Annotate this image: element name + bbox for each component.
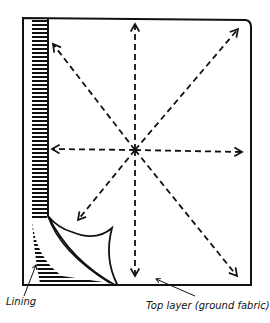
arrow-up-right xyxy=(135,29,238,150)
lining-label: Lining xyxy=(6,296,36,307)
arrow-up-left xyxy=(53,44,135,150)
fabric-diagram xyxy=(0,0,270,323)
lining-leader xyxy=(24,265,36,296)
arrow-down-left xyxy=(78,150,135,220)
arrow-left xyxy=(52,149,135,150)
arrow-right xyxy=(135,150,242,152)
top-layer-leader xyxy=(156,279,195,296)
top-layer-label: Top layer (ground fabric) xyxy=(146,300,270,311)
arrow-down-right xyxy=(135,150,237,276)
